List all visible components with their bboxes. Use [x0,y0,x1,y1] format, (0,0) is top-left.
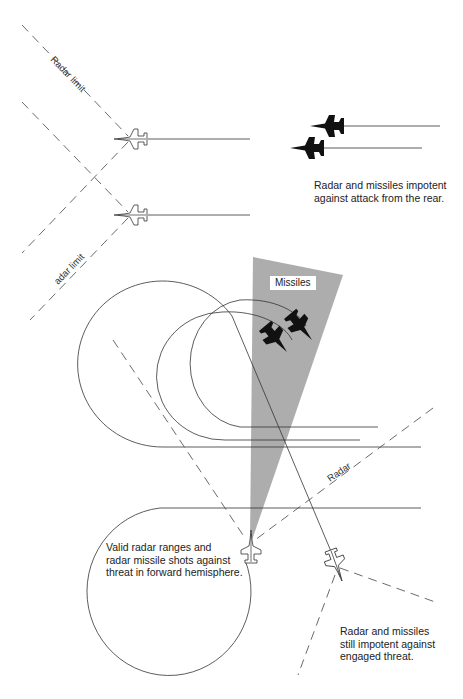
attacker-aircraft-icon [310,115,344,137]
missiles-label: Missiles [270,276,316,290]
friendly-tracks [148,139,250,215]
caption-engaged-threat: Radar and missiles still impotent agains… [340,625,435,663]
friendly-forward-aircraft-icon [241,530,261,563]
threat-aircraft-icon [321,547,351,585]
diagram-canvas: Radar limit adar limit Radar [0,0,463,699]
caption-rear-attack: Radar and missiles impotent against atta… [314,179,446,204]
friendly-aircraft-icon [114,205,147,225]
friendly-aircraft-icon [114,129,147,149]
radar-limit-bottom-label: adar limit [52,251,87,287]
radar-limit-top-label: Radar limit [49,54,89,95]
caption-forward-hemisphere: Valid radar ranges and radar missile sho… [106,541,243,579]
turn-paths [78,281,421,675]
radar-limit-lines [22,25,128,320]
radar-label: Radar [325,460,353,484]
missile-cone [250,257,343,540]
attacker-aircraft-icon [290,137,324,159]
